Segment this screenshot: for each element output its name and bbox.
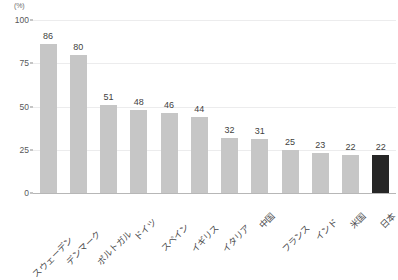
bar[interactable] — [251, 139, 268, 193]
bar-value-label: 31 — [245, 127, 275, 136]
bar[interactable] — [221, 138, 238, 193]
category-slot: イギリス — [184, 196, 214, 250]
bar-value-label: 23 — [305, 141, 335, 150]
x-axis-category-label: 中国 — [256, 209, 278, 231]
bar-value-label: 86 — [33, 32, 63, 41]
bar-slot: 44 — [184, 20, 214, 193]
bar-highlighted[interactable] — [372, 155, 389, 193]
y-axis-unit-label: (%) — [14, 2, 24, 9]
bar-value-label: 51 — [94, 93, 124, 102]
bar-slot: 23 — [305, 20, 335, 193]
bar-series: 868051484644323125232222 — [33, 20, 396, 193]
bar-value-label: 48 — [124, 98, 154, 107]
category-slot: 日本 — [366, 196, 396, 250]
bar-value-label: 25 — [275, 138, 305, 147]
axis-baseline — [33, 193, 396, 194]
y-axis-tick-label: 0 — [24, 189, 29, 198]
bar[interactable] — [191, 117, 208, 193]
bar-slot: 46 — [154, 20, 184, 193]
category-slot: デンマーク — [63, 196, 93, 250]
bar-slot: 80 — [63, 20, 93, 193]
category-slot: イタリア — [215, 196, 245, 250]
bar[interactable] — [161, 113, 178, 193]
bar-slot: 22 — [336, 20, 366, 193]
x-axis-category-label: 日本 — [377, 209, 398, 231]
bar[interactable] — [70, 55, 87, 193]
category-slot: 米国 — [336, 196, 366, 250]
bar-value-label: 44 — [184, 105, 214, 114]
bar-slot: 22 — [366, 20, 396, 193]
category-slot: 中国 — [245, 196, 275, 250]
bar-slot: 48 — [124, 20, 154, 193]
bar[interactable] — [130, 110, 147, 193]
bar[interactable] — [312, 153, 329, 193]
bar[interactable] — [282, 150, 299, 193]
category-slot: ポルトガル — [94, 196, 124, 250]
bar-slot: 31 — [245, 20, 275, 193]
bar-slot: 86 — [33, 20, 63, 193]
category-slot: スペイン — [154, 196, 184, 250]
bar-slot: 51 — [94, 20, 124, 193]
y-axis-tick-labels: 0255075100 — [14, 20, 29, 193]
bar-value-label: 46 — [154, 101, 184, 110]
y-axis-tick-label: 75 — [20, 59, 29, 68]
category-slot: フランス — [275, 196, 305, 250]
bar-slot: 25 — [275, 20, 305, 193]
bar[interactable] — [40, 44, 57, 193]
bar-value-label: 22 — [366, 143, 396, 152]
bar-value-label: 80 — [63, 43, 93, 52]
y-axis-tick-label: 25 — [20, 146, 29, 155]
y-axis-tick-label: 100 — [15, 16, 29, 25]
y-axis-tick-label: 50 — [20, 102, 29, 111]
x-axis-category-labels: スウェーデンデンマークポルトガルドイツスペインイギリスイタリア中国フランスインド… — [33, 196, 396, 250]
bar-value-label: 22 — [336, 143, 366, 152]
category-slot: ドイツ — [124, 196, 154, 250]
bar[interactable] — [100, 105, 117, 193]
bar[interactable] — [342, 155, 359, 193]
category-slot: スウェーデン — [33, 196, 63, 250]
x-axis-category-label: 米国 — [346, 209, 368, 231]
bar-slot: 32 — [215, 20, 245, 193]
bar-value-label: 32 — [215, 126, 245, 135]
category-slot: インド — [305, 196, 335, 250]
